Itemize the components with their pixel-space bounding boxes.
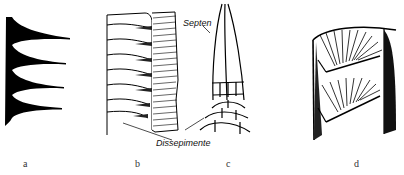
panel-a-drawing bbox=[5, 17, 70, 126]
panel-a-label: a bbox=[23, 158, 27, 169]
panel-b-drawing bbox=[107, 12, 178, 140]
panel-d-label: d bbox=[354, 158, 359, 169]
panel-d-drawing bbox=[313, 27, 396, 140]
septen-annotation: Septen bbox=[183, 18, 212, 28]
panel-b-label: b bbox=[135, 158, 140, 169]
panel-c-label: c bbox=[226, 158, 230, 169]
dissepimente-annotation: Dissepimente bbox=[156, 138, 211, 148]
